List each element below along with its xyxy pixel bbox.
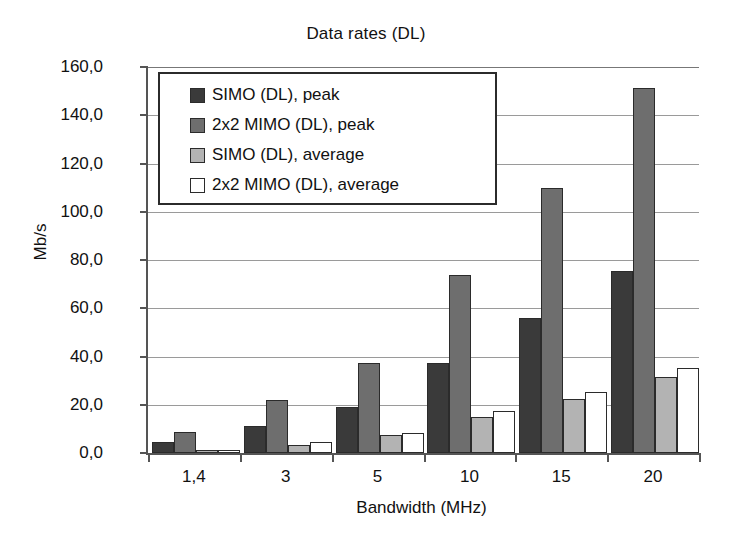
bar[interactable] (493, 411, 515, 453)
y-tick-label: 140,0 (25, 105, 103, 125)
x-tick-label: 15 (552, 467, 571, 487)
x-tick-label: 1,4 (182, 467, 206, 487)
x-tick-mark (607, 453, 609, 462)
y-tick-mark (140, 114, 148, 116)
y-tick-label: 80,0 (25, 250, 103, 270)
x-tick-label: 3 (281, 467, 290, 487)
y-tick-mark (140, 66, 148, 68)
x-tick-label: 5 (373, 467, 382, 487)
bar[interactable] (358, 363, 380, 453)
chart-title: Data rates (DL) (0, 24, 732, 44)
y-tick-label: 40,0 (25, 347, 103, 367)
bar[interactable] (519, 318, 541, 453)
bar-group (515, 67, 607, 453)
legend-swatch-icon (190, 118, 205, 133)
bar[interactable] (152, 442, 174, 453)
x-tick-mark (515, 453, 517, 462)
y-tick-label: 100,0 (25, 202, 103, 222)
bar[interactable] (310, 442, 332, 453)
legend-swatch-icon (190, 88, 205, 103)
y-tick-label: 120,0 (25, 154, 103, 174)
bar[interactable] (541, 188, 563, 453)
y-tick-mark (140, 211, 148, 213)
x-tick-mark (699, 453, 701, 462)
bar[interactable] (336, 407, 358, 453)
y-tick-label: 0,0 (25, 443, 103, 463)
bar[interactable] (402, 433, 424, 453)
legend-label: SIMO (DL), average (212, 145, 364, 165)
legend-swatch-icon (190, 178, 205, 193)
bar[interactable] (585, 392, 607, 453)
bar[interactable] (380, 435, 402, 453)
bar[interactable] (288, 445, 310, 453)
y-tick-mark (140, 356, 148, 358)
bar[interactable] (611, 271, 633, 453)
bar[interactable] (563, 399, 585, 453)
bar[interactable] (633, 88, 655, 453)
y-tick-mark (140, 404, 148, 406)
x-tick-mark (148, 453, 150, 462)
y-tick-mark (140, 452, 148, 454)
bar[interactable] (449, 275, 471, 453)
bar[interactable] (471, 417, 493, 453)
bar[interactable] (196, 450, 218, 453)
bar[interactable] (266, 400, 288, 453)
y-tick-label: 160,0 (25, 57, 103, 77)
y-tick-label: 20,0 (25, 395, 103, 415)
legend-item[interactable]: SIMO (DL), peak (160, 80, 495, 110)
legend-item[interactable]: SIMO (DL), average (160, 140, 495, 170)
x-tick-mark (240, 453, 242, 462)
x-axis-title: Bandwidth (MHz) (146, 498, 697, 518)
bar[interactable] (244, 426, 266, 453)
y-tick-mark (140, 259, 148, 261)
y-tick-mark (140, 163, 148, 165)
bar[interactable] (677, 368, 699, 453)
x-tick-label: 20 (644, 467, 663, 487)
legend-label: 2x2 MIMO (DL), average (212, 175, 399, 195)
x-tick-mark (424, 453, 426, 462)
bar[interactable] (174, 432, 196, 453)
legend-label: SIMO (DL), peak (212, 85, 340, 105)
legend-item[interactable]: 2x2 MIMO (DL), peak (160, 110, 495, 140)
bar-chart: Data rates (DL) Mb/s 0,020,040,060,080,0… (0, 0, 732, 545)
y-tick-mark (140, 307, 148, 309)
bar[interactable] (427, 363, 449, 453)
x-tick-mark (332, 453, 334, 462)
legend-item[interactable]: 2x2 MIMO (DL), average (160, 170, 495, 200)
bar-group (607, 67, 699, 453)
bar[interactable] (655, 377, 677, 453)
legend-swatch-icon (190, 148, 205, 163)
chart-legend: SIMO (DL), peak2x2 MIMO (DL), peakSIMO (… (158, 72, 497, 205)
legend-label: 2x2 MIMO (DL), peak (212, 115, 375, 135)
y-tick-label: 60,0 (25, 298, 103, 318)
x-tick-label: 10 (460, 467, 479, 487)
bar[interactable] (218, 450, 240, 453)
